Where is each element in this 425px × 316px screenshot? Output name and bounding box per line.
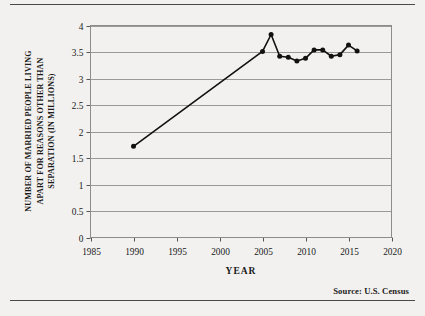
x-tick-label: 2020: [383, 247, 402, 257]
data-point-marker: [131, 144, 136, 149]
data-point-marker: [312, 47, 317, 52]
y-tick-label: 2.5: [72, 101, 84, 111]
data-point-marker: [269, 32, 274, 37]
x-tick-label: 1990: [125, 247, 144, 257]
data-point-marker: [294, 59, 299, 64]
x-tick-label: 2005: [254, 247, 273, 257]
x-tick-label: 2000: [211, 247, 230, 257]
bottom-divider-rule: [10, 300, 415, 301]
x-tick-label: 2010: [297, 247, 316, 257]
data-markers: [131, 32, 360, 149]
data-point-marker: [355, 48, 360, 53]
data-point-marker: [277, 54, 282, 59]
data-point-marker: [320, 47, 325, 52]
y-tick-label: 1.5: [72, 154, 84, 164]
plot-frame: [91, 26, 392, 238]
x-axis-ticks: 19851990199520002005201020152020: [82, 238, 402, 257]
y-tick-label: 0: [79, 234, 84, 244]
data-point-marker: [346, 43, 351, 48]
source-note: Source: U.S. Census: [333, 286, 409, 296]
data-point-marker: [286, 55, 291, 60]
data-point-marker: [260, 49, 265, 54]
y-tick-label: 1: [79, 181, 84, 191]
gridlines: [91, 27, 392, 212]
y-tick-label: 3.5: [72, 48, 84, 58]
y-axis-ticks: 00.511.522.533.54: [72, 22, 91, 244]
x-tick-label: 1985: [82, 247, 101, 257]
y-tick-label: 0.5: [72, 207, 84, 217]
x-tick-label: 2015: [340, 247, 359, 257]
x-axis-title: YEAR: [90, 266, 392, 276]
x-tick-label: 1995: [168, 247, 187, 257]
y-tick-label: 4: [79, 22, 84, 32]
data-point-marker: [337, 52, 342, 57]
y-tick-label: 2: [79, 128, 84, 138]
y-tick-label: 3: [79, 75, 84, 85]
chart-figure: NUMBER OF MARRIED PEOPLE LIVING APART FO…: [0, 0, 425, 316]
data-point-marker: [303, 56, 308, 61]
data-point-marker: [329, 54, 334, 59]
